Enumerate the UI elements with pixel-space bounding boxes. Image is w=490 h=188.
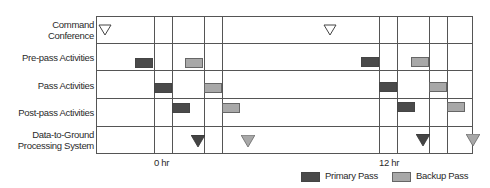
data-to-ground-backup-marker-icon	[241, 135, 255, 147]
row-divider	[96, 126, 473, 127]
pre-pass-primary-bar	[361, 57, 379, 67]
data-to-ground-primary-marker-icon	[191, 135, 205, 147]
time-divider	[172, 16, 173, 154]
post-pass-backup-bar	[222, 103, 240, 113]
post-pass-primary-bar	[172, 103, 190, 113]
pre-pass-backup-bar	[411, 57, 429, 67]
post-pass-backup-bar	[447, 102, 465, 112]
pre-pass-backup-bar	[185, 58, 203, 68]
row-label-command-conference: Command Conference	[48, 19, 94, 41]
command-conference-marker-icon	[323, 24, 337, 36]
pass-backup-bar	[204, 83, 222, 93]
row-label-pre-pass: Pre-pass Activities	[22, 52, 94, 63]
label-line: Processing System	[18, 140, 94, 151]
time-divider	[222, 16, 223, 154]
pass-primary-bar	[379, 82, 397, 92]
label-line: Command	[48, 19, 94, 30]
legend-backup-swatch	[392, 172, 411, 182]
legend-primary-label: Primary Pass	[325, 170, 378, 181]
time-divider	[447, 16, 448, 154]
axis-label-0hr: 0 hr	[154, 157, 169, 168]
row-label-post-pass: Post-pass Activities	[18, 107, 94, 118]
row-label-pass: Pass Activities	[38, 80, 94, 91]
pass-backup-bar	[429, 82, 447, 92]
data-to-ground-primary-marker-icon	[416, 134, 430, 146]
command-conference-marker-icon	[98, 24, 112, 36]
pre-pass-primary-bar	[135, 58, 153, 68]
row-label-data-to-ground: Data-to-Ground Processing System	[18, 129, 94, 151]
post-pass-primary-bar	[397, 102, 415, 112]
row-divider	[96, 98, 473, 99]
axis-label-12hr: 12 hr	[379, 157, 399, 168]
data-to-ground-backup-marker-icon	[466, 134, 480, 146]
legend-primary-swatch	[301, 172, 320, 182]
pass-primary-bar	[154, 83, 172, 93]
label-line: Data-to-Ground	[18, 129, 94, 140]
label-line: Conference	[48, 30, 94, 41]
time-divider	[397, 16, 398, 154]
legend-backup-label: Backup Pass	[416, 170, 468, 181]
row-divider	[96, 70, 473, 71]
row-divider	[96, 43, 473, 44]
